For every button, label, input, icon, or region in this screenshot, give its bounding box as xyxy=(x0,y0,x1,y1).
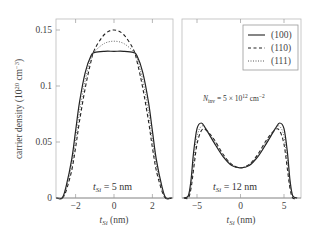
x-tick-label: 0 xyxy=(112,201,117,211)
curve-100 xyxy=(56,51,171,199)
left-x-axis-label: tSi (nm) xyxy=(100,215,129,227)
legend-label-100: (100) xyxy=(271,30,292,41)
y-tick-label: 0 xyxy=(47,193,52,203)
ninv-annotation: Ninv = 5 × 1012 cm−2 xyxy=(202,93,265,104)
x-tick-label: 2 xyxy=(150,201,155,211)
legend: (100) (110) (111) xyxy=(243,25,298,70)
left-panel: −202 00.050.10.15 tSi = 5 nm xyxy=(35,19,173,211)
x-tick-label: 5 xyxy=(282,201,287,211)
left-annotation: tSi = 5 nm xyxy=(93,181,132,194)
y-tick-label: 0.1 xyxy=(40,81,52,91)
x-tick-label: 0 xyxy=(238,201,243,211)
left-panel-frame xyxy=(56,19,173,198)
x-tick-label: −5 xyxy=(192,201,202,211)
y-axis-label: carrier density (1020 cm−3) xyxy=(13,59,26,159)
right-x-axis-label: tSi (nm) xyxy=(227,215,256,227)
curve-110 xyxy=(56,30,171,198)
legend-label-111: (111) xyxy=(271,56,291,67)
x-tick-label: −2 xyxy=(71,201,81,211)
right-panel: −505 tSi = 12 nm Ninv = 5 × 1012 cm−2 (1… xyxy=(182,19,301,211)
right-annotation: tSi = 12 nm xyxy=(213,181,257,194)
legend-label-110: (110) xyxy=(271,43,291,54)
left-curves xyxy=(56,30,171,199)
curve-111 xyxy=(56,41,171,198)
chart-figure: −202 00.050.10.15 tSi = 5 nm −505 tSi = … xyxy=(0,0,315,238)
y-tick-label: 0.05 xyxy=(35,137,52,147)
y-tick-label: 0.15 xyxy=(35,25,52,35)
